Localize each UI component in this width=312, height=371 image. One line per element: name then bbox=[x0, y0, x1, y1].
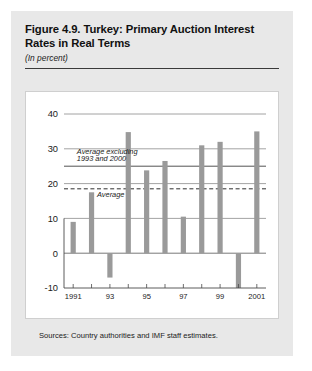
bar bbox=[107, 253, 112, 277]
y-axis-tick-label: -10 bbox=[45, 283, 58, 293]
figure-header: Figure 4.9. Turkey: Primary Auction Inte… bbox=[11, 11, 293, 63]
x-axis-tick-label: 95 bbox=[142, 292, 150, 301]
bar bbox=[236, 253, 241, 288]
x-axis-tick-label: 99 bbox=[216, 292, 224, 301]
y-axis-tick-label: 30 bbox=[48, 144, 58, 154]
y-axis-tick-label: 20 bbox=[48, 179, 58, 189]
chart-annotation: Average bbox=[96, 190, 124, 199]
chart-plot-area: -10010203040Average excluding1993 and 20… bbox=[26, 92, 278, 318]
chart-annotation: 1993 and 2000 bbox=[77, 154, 127, 163]
page-title: Figure 4.9. Turkey: Primary Auction Inte… bbox=[25, 22, 279, 50]
bar bbox=[71, 222, 76, 253]
x-axis-tick-label: 97 bbox=[179, 292, 187, 301]
x-axis-tick-label: 93 bbox=[106, 292, 114, 301]
bar bbox=[217, 142, 222, 253]
y-axis-tick-label: 10 bbox=[48, 214, 58, 224]
y-axis-tick-label: 0 bbox=[53, 249, 58, 259]
bar bbox=[199, 145, 204, 253]
figure-card: Figure 4.9. Turkey: Primary Auction Inte… bbox=[11, 11, 293, 356]
bar bbox=[254, 131, 259, 253]
source-note: Sources: Country authorities and IMF sta… bbox=[39, 331, 279, 341]
bar bbox=[162, 161, 167, 253]
y-axis-tick-label: 40 bbox=[48, 109, 58, 119]
bar bbox=[144, 170, 149, 253]
header-divider bbox=[25, 68, 279, 69]
x-axis-tick-label: 2001 bbox=[248, 292, 265, 301]
figure-subtitle: (In percent) bbox=[25, 53, 279, 63]
bar bbox=[89, 192, 94, 253]
x-axis-tick-label: 1991 bbox=[65, 292, 82, 301]
bar-chart: -10010203040Average excluding1993 and 20… bbox=[26, 92, 278, 318]
bar bbox=[181, 217, 186, 254]
chart-panel: -10010203040Average excluding1993 and 20… bbox=[25, 91, 279, 319]
